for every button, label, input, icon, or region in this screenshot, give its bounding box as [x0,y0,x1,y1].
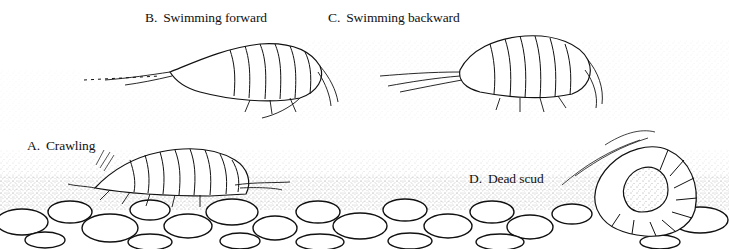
label-dead-scud: D.Dead scud [469,172,544,186]
label-swimming-backward: C.Swimming backward [328,11,460,25]
label-text: Swimming forward [163,10,267,25]
label-letter: D. [469,171,482,186]
scud-illustration: B.Swimming forward C.Swimming backward A… [0,0,729,249]
label-text: Dead scud [488,171,544,186]
illustration-artwork [0,0,729,249]
label-text: Crawling [46,138,95,153]
label-text: Swimming backward [346,10,459,25]
label-crawling: A.Crawling [27,139,95,153]
label-letter: C. [328,10,340,25]
label-letter: A. [27,138,40,153]
label-letter: B. [145,10,157,25]
label-swimming-forward: B.Swimming forward [145,11,267,25]
